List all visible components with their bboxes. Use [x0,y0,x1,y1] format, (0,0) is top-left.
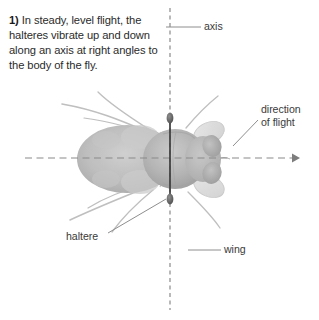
label-direction-of-flight: directionof flight [261,103,301,129]
label-haltere: haltere [66,230,98,243]
caption-text: In steady, level flight, the halteres vi… [9,14,161,71]
haltere-flight-figure: 1) In steady, level flight, the halteres… [0,0,319,320]
leader-direction [233,120,258,146]
label-direction-line2: of flight [261,116,295,128]
caption-number: 1) [9,14,19,26]
label-direction-line1: direction [261,103,301,115]
haltere-knob-upper [167,113,174,124]
figure-caption: 1) In steady, level flight, the halteres… [9,13,161,73]
label-axis: axis [204,20,223,33]
label-wing: wing [224,243,246,256]
haltere-knob-lower [167,194,174,205]
